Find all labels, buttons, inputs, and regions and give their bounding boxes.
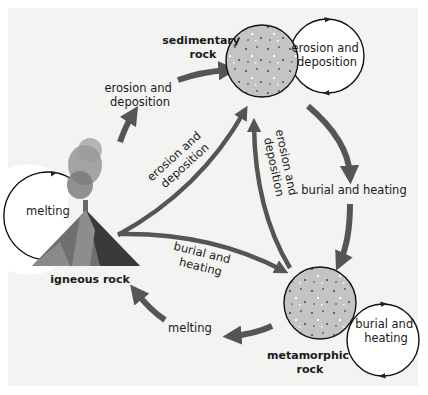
edge-label-melting: melting — [168, 321, 212, 335]
rock-cycle-figure: sedimentary rock erosion and deposition … — [0, 0, 428, 395]
metamorphic-rock-circle — [284, 267, 356, 339]
sedimentary-loop-label: erosion and deposition — [291, 41, 362, 69]
metamorphic-rock-label: metamorphic rock — [267, 349, 353, 376]
edge-label-burial-heating-right: burial and heating — [301, 183, 406, 197]
igneous-loop-label: melting — [26, 204, 70, 218]
edge-label-erosion-inner: erosion and deposition — [144, 126, 216, 194]
edge-label-erosion-outer: erosion and deposition — [104, 81, 175, 109]
edge-label-erosion-metamorphic: erosion and deposition — [260, 128, 301, 203]
rock-cycle-diagram: sedimentary rock erosion and deposition … — [0, 0, 428, 395]
igneous-rock-label: igneous rock — [50, 273, 130, 286]
metamorphic-loop-label: burial and heating — [355, 317, 417, 345]
